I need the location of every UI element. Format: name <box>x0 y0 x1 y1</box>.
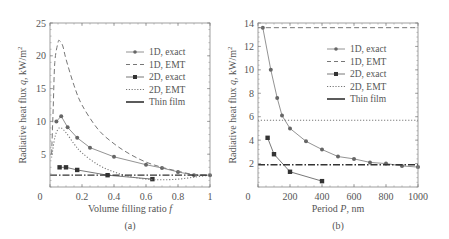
series-line <box>52 40 210 175</box>
y-tick-label: 2 <box>249 158 254 169</box>
x-tick-label: 800 <box>379 191 394 202</box>
data-point <box>320 179 324 183</box>
data-point <box>75 136 79 140</box>
data-point <box>280 114 284 118</box>
legend-entry: 2D, exact <box>149 72 186 82</box>
y-tick-label: 5 <box>41 149 46 160</box>
y-tick-label: 14 <box>244 18 254 29</box>
y-tick-label: 10 <box>36 116 46 127</box>
figure: 00.20.40.60.81510152025 1D, exact1D, EMT… <box>0 0 449 239</box>
legend-entry: 2D, exact <box>350 69 387 79</box>
legend-entry: 1D, EMT <box>149 60 186 70</box>
data-point <box>144 163 148 167</box>
data-point <box>75 168 79 172</box>
y-tick-label: 15 <box>36 83 46 94</box>
y-tick-label: 12 <box>244 41 254 52</box>
data-point <box>64 165 68 169</box>
legend-entry: Thin film <box>149 97 186 107</box>
panel-label-b: (b) <box>332 220 344 232</box>
data-point <box>336 155 340 159</box>
series-line <box>56 116 210 175</box>
data-point <box>275 96 279 100</box>
x-axis-label-a: Volume filling ratio f <box>88 203 173 214</box>
x-axis-label-b: Period P, nm <box>312 203 365 214</box>
legend-entry: Thin film <box>350 94 387 104</box>
axes-b: 020040060080010002468101214 <box>244 18 428 203</box>
legend-b: 1D, exact1D, EMT2D, exact2D, EMTThin fil… <box>327 44 387 104</box>
x-tick-label: 400 <box>315 191 330 202</box>
data-point <box>57 165 61 169</box>
y-tick-label: 8 <box>249 88 254 99</box>
data-point <box>272 152 276 156</box>
x-tick-label: 0.2 <box>76 191 89 202</box>
legend-entry: 2D, EMT <box>149 85 186 95</box>
legend-entry: 1D, exact <box>149 47 186 57</box>
legend-entry: 1D, EMT <box>350 57 387 67</box>
data-point <box>352 157 356 161</box>
plot-area-a <box>50 40 212 181</box>
x-tick-label: 0.8 <box>172 191 185 202</box>
series-line <box>263 28 418 167</box>
data-point <box>150 177 154 181</box>
chart-panel-b: 020040060080010002468101214 1D, exact1D,… <box>226 18 428 233</box>
x-tick-label: 0 <box>38 191 43 202</box>
y-tick-label: 20 <box>36 50 46 61</box>
x-tick-label: 600 <box>347 191 362 202</box>
data-point <box>368 160 372 164</box>
data-point <box>88 146 92 150</box>
data-point <box>112 155 116 159</box>
data-point <box>288 170 292 174</box>
chart-panel-a: 00.20.40.60.81510152025 1D, exact1D, EMT… <box>16 18 213 233</box>
x-tick-label: 1 <box>208 191 213 202</box>
y-axis-label-a: Radiative heat flux q, kW/m2 <box>16 46 28 164</box>
data-point <box>265 136 269 140</box>
x-tick-label: 0.4 <box>108 191 121 202</box>
x-tick-label: 1000 <box>408 191 428 202</box>
y-tick-label: 25 <box>36 18 46 29</box>
x-tick-label: 0 <box>246 191 251 202</box>
data-point <box>304 139 308 143</box>
legend-a: 1D, exact1D, EMT2D, exact2D, EMTThin fil… <box>126 47 186 107</box>
y-tick-label: 6 <box>249 111 254 122</box>
plot-frame <box>50 23 210 187</box>
data-point <box>59 114 63 118</box>
series-line <box>268 138 322 181</box>
data-point <box>269 68 273 72</box>
legend-entry: 1D, exact <box>350 44 387 54</box>
data-point <box>66 125 70 129</box>
legend-entry: 2D, EMT <box>350 82 387 92</box>
x-tick-label: 0.6 <box>140 191 153 202</box>
x-tick-label: 200 <box>283 191 298 202</box>
y-axis-label-b: Radiative heat flux q, kW/m2 <box>226 46 238 164</box>
data-point <box>288 126 292 130</box>
data-point <box>54 119 58 123</box>
y-tick-label: 4 <box>249 135 254 146</box>
y-tick-label: 10 <box>244 64 254 75</box>
data-point <box>320 148 324 152</box>
panel-label-a: (a) <box>124 220 135 232</box>
